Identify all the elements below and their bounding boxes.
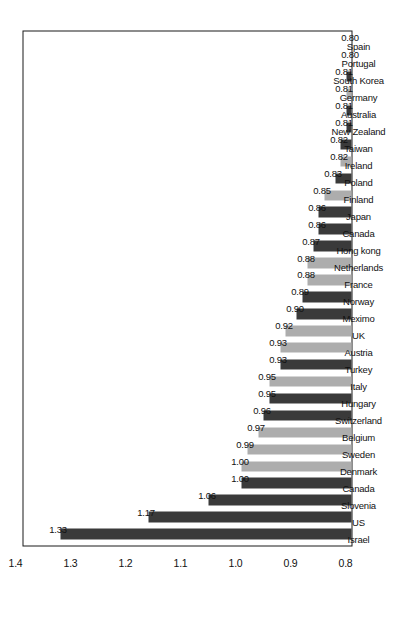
plot-area: 1.331.171.061.001.000.990.970.960.950.95… [22,30,352,546]
category-label: Australia [340,110,375,120]
bar-slot: 0.90 [23,305,351,322]
bar-slot: 0.80 [23,34,351,51]
category-axis-labels: IsraelUSSloveniaCanadaDenmarkSwedenBelgi… [356,30,390,546]
category-label: Israel [347,535,369,545]
bar-slot: 0.86 [23,203,351,220]
bar: 0.97 [258,427,352,438]
axis-tick-label: 1.3 [63,556,77,568]
category-label-slot: Netherlands [356,254,390,271]
category-label-slot: US [356,509,390,526]
category-label: Finland [343,195,373,205]
category-label-slot: Germany [356,84,390,101]
category-label-slot: Australia [356,101,390,118]
bar-slot: 0.88 [23,271,351,288]
category-label-slot: Ireland [356,152,390,169]
bar: 0.99 [247,444,352,455]
category-label: Portugal [341,59,375,69]
axis-tick-label: 1.2 [118,556,132,568]
category-label: Germany [339,93,377,103]
category-label: Taiwan [344,144,372,154]
bar-slot: 0.82 [23,152,351,169]
bar: 1.33 [60,528,352,539]
category-label-slot: Turkey [356,356,390,373]
bar-slot: 0.95 [23,373,351,390]
category-label: New Zealand [331,127,385,137]
axis-tick-label: 1.4 [8,556,22,568]
category-label-slot: South Korea [356,67,390,84]
bar-slot: 0.82 [23,136,351,153]
bar: 0.95 [269,393,352,404]
category-label: Norway [342,297,373,307]
category-label: Spain [346,42,369,52]
category-label-slot: Hong kong [356,237,390,254]
category-label-slot: France [356,271,390,288]
bar-slot: 0.93 [23,339,351,356]
bar-slot: 0.81 [23,85,351,102]
category-label: Hong kong [336,246,380,256]
bar-slot: 0.97 [23,423,351,440]
axis-tick-label: 1.0 [228,556,242,568]
category-label: Meximo [342,314,374,324]
category-label-slot: Finland [356,186,390,203]
chart-screenshot: 0.80.91.01.11.21.31.4 1.331.171.061.001.… [0,0,393,642]
category-label: Belgium [342,433,375,443]
value-axis: 0.80.91.01.11.21.31.4 [22,548,352,612]
bar-slot: 0.89 [23,288,351,305]
category-label-slot: Denmark [356,458,390,475]
category-label-slot: Japan [356,203,390,220]
bar-slot: 0.81 [23,68,351,85]
category-label: Netherlands [333,263,382,273]
category-label-slot: Norway [356,288,390,305]
category-label: Hungary [341,399,376,409]
bar-slot: 0.80 [23,51,351,68]
category-label: Canada [342,229,374,239]
bar-slot: 1.17 [23,508,351,525]
category-label: Poland [344,178,372,188]
category-label: Italy [350,382,366,392]
category-label: Switzerland [335,416,382,426]
rotated-figure-wrapper: 0.80.91.01.11.21.31.4 1.331.171.061.001.… [0,0,393,642]
bar-slot: 0.92 [23,322,351,339]
bar-slot: 1.00 [23,457,351,474]
axis-tick-label: 0.9 [283,556,297,568]
category-label-slot: Israel [356,526,390,543]
bar-slot: 0.83 [23,169,351,186]
bar-slot: 0.81 [23,102,351,119]
bar-slot: 0.96 [23,407,351,424]
category-label-slot: Portugal [356,50,390,67]
category-label: Turkey [344,365,371,375]
category-label-slot: Poland [356,169,390,186]
category-label: UK [352,331,365,341]
bar-series: 1.331.171.061.001.000.990.970.960.950.95… [23,31,351,545]
category-label-slot: Taiwan [356,135,390,152]
category-label: Japan [346,212,371,222]
category-label-slot: Meximo [356,305,390,322]
category-label-slot: Austria [356,339,390,356]
bar: 1.00 [241,461,351,472]
category-label: Canada [342,484,374,494]
category-label-slot: Italy [356,373,390,390]
bar: 1.00 [241,477,351,488]
bar: 1.17 [148,511,352,522]
category-label: South Korea [333,76,384,86]
bar-slot: 0.87 [23,237,351,254]
category-label: France [344,280,372,290]
bar: 0.92 [285,325,351,336]
bar: 1.06 [208,494,351,505]
bar-slot: 0.81 [23,119,351,136]
category-label-slot: Hungary [356,390,390,407]
category-label-slot: Canada [356,475,390,492]
category-label: Ireland [344,161,372,171]
bar-slot: 1.06 [23,491,351,508]
category-label-slot: Switzerland [356,407,390,424]
bar-slot: 1.33 [23,525,351,542]
bar-slot: 0.86 [23,220,351,237]
bar: 0.95 [269,376,352,387]
category-label: Sweden [341,450,374,460]
category-label-slot: UK [356,322,390,339]
bar-chart-figure: 0.80.91.01.11.21.31.4 1.331.171.061.001.… [0,0,393,642]
category-label: Austria [344,348,372,358]
category-label-slot: Canada [356,220,390,237]
bar-slot: 0.95 [23,390,351,407]
category-label-slot: Sweden [356,441,390,458]
